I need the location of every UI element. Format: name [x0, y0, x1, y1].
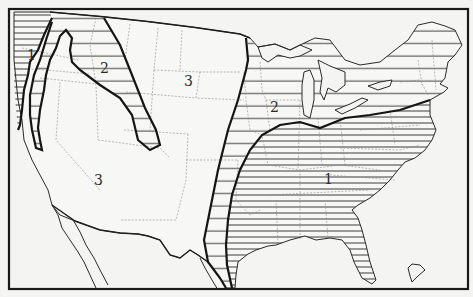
zone-label-midwest: 2: [270, 99, 279, 115]
zone-label-southwest: 3: [94, 172, 103, 188]
zone-label-great-basin: 2: [100, 60, 109, 76]
cuba-coast: [408, 264, 425, 282]
zone-label-northern-plains: 3: [184, 73, 193, 89]
zone-label-southeast: 1: [324, 171, 333, 187]
zone-label-nw-coast: 1: [27, 47, 36, 63]
zone-map: 1 2 3 3 2 1: [0, 0, 473, 297]
